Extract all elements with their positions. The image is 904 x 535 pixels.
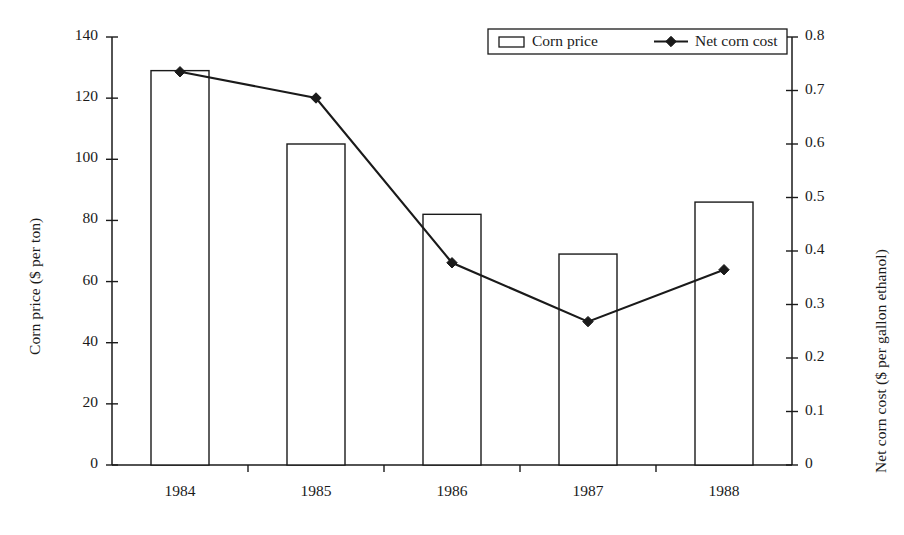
y-axis-left-tick-label: 140 [36, 26, 98, 44]
y-axis-left-tick-label: 60 [36, 271, 98, 289]
y-axis-right-tick-label: 0 [805, 454, 849, 472]
y-axis-left-tick-label: 120 [36, 87, 98, 105]
y-axis-right-tick-label: 0.6 [805, 133, 849, 151]
bar-corn-price [695, 202, 753, 465]
chart-container: Corn price ($ per ton) Net corn cost ($ … [0, 0, 904, 535]
y-axis-right-tick-label: 0.5 [805, 187, 849, 205]
y-axis-left-tick-label: 20 [36, 393, 98, 411]
chart-canvas [0, 0, 904, 535]
y-axis-left-tick-label: 40 [36, 332, 98, 350]
legend-label-net-corn-cost: Net corn cost [695, 32, 778, 50]
y-axis-left-tick-label: 80 [36, 209, 98, 227]
y-axis-left-tick-label: 0 [36, 454, 98, 472]
bar-corn-price [151, 71, 209, 465]
y-axis-right-tick-label: 0.3 [805, 294, 849, 312]
x-axis-category-label: 1988 [679, 482, 769, 500]
x-axis-category-label: 1985 [271, 482, 361, 500]
x-axis-category-label: 1984 [135, 482, 225, 500]
bar-corn-price [423, 214, 481, 465]
y-axis-right-tick-label: 0.4 [805, 240, 849, 258]
legend-label-corn-price: Corn price [532, 32, 598, 50]
y-axis-right-tick-label: 0.2 [805, 347, 849, 365]
x-axis-category-label: 1986 [407, 482, 497, 500]
bar-corn-price [559, 254, 617, 465]
legend-swatch-corn-price [499, 37, 524, 47]
x-axis-category-label: 1987 [543, 482, 633, 500]
bar-corn-price [287, 144, 345, 465]
y-axis-right-tick-label: 0.8 [805, 26, 849, 44]
y-axis-right-tick-label: 0.7 [805, 80, 849, 98]
y-axis-left-tick-label: 100 [36, 148, 98, 166]
y-axis-right-tick-label: 0.1 [805, 401, 849, 419]
y-axis-right-title: Net corn cost ($ per gallon ethanol) [872, 249, 890, 473]
